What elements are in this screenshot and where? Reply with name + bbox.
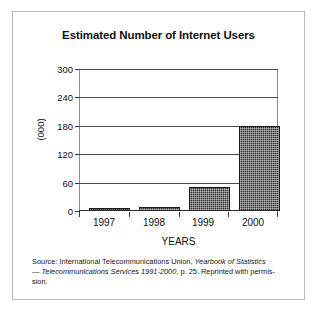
- axis-baseline: [79, 210, 278, 211]
- source-note: Source: International Telecommunications…: [32, 257, 288, 288]
- plot-area: [79, 69, 278, 211]
- x-axis-label: YEARS: [79, 236, 278, 247]
- source-line1-prefix: Source: International Telecommunications…: [32, 257, 193, 266]
- y-tick-label-300: 300: [39, 65, 73, 74]
- source-line2-rest: , p. 25. Reprinted with permis-: [176, 267, 275, 276]
- x-tick-label-1999: 1999: [178, 217, 228, 228]
- y-tick-label-120: 120: [39, 150, 73, 159]
- y-tick-label-180: 180: [39, 122, 73, 131]
- figure-frame: Estimated Number of Internet Users (000)…: [12, 11, 305, 300]
- x-tick-label-1998: 1998: [129, 217, 179, 228]
- x-tick-label-1997: 1997: [79, 217, 129, 228]
- y-tick-label-60: 60: [39, 179, 73, 188]
- gridline-240: [79, 97, 278, 98]
- y-tick-label-0: 0: [39, 207, 73, 216]
- source-line2-dash: —: [32, 267, 39, 276]
- gridline-300: [79, 69, 278, 70]
- source-line3: sion.: [32, 277, 48, 286]
- x-tick-label-2000: 2000: [228, 217, 278, 228]
- y-tick-label-240: 240: [39, 93, 73, 102]
- source-line2-italic: Telecommunications Services 1991-2000: [41, 267, 176, 276]
- page-title: Estimated Number of Internet Users: [13, 29, 304, 41]
- bar-1999: [189, 187, 230, 211]
- source-line1-italic: Yearbook of Statistics: [195, 257, 266, 266]
- bar-2000: [239, 126, 280, 211]
